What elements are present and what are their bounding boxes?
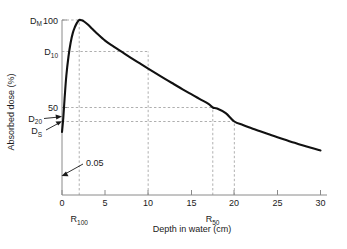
- svg-text:DM: DM: [30, 16, 42, 28]
- ytick-label-100: 100: [43, 16, 58, 26]
- d-m-sub: M: [37, 20, 42, 27]
- svg-text:R50: R50: [206, 214, 220, 226]
- svg-text:D10: D10: [44, 47, 58, 59]
- range-100-marker: R100: [71, 214, 89, 226]
- depth-dose-chart: 100 50 0 5 10 15 20 25 30 Depth in water…: [0, 0, 347, 249]
- xtick-label-25: 25: [272, 198, 282, 208]
- r-50-sub: 50: [212, 219, 220, 226]
- d-s-arrow-line: [46, 123, 59, 130]
- annot-005-arrow-line: [65, 164, 83, 174]
- d-s-arrowhead: [56, 121, 63, 125]
- xtick-label-0: 0: [59, 198, 64, 208]
- x-axis-title: Depth in water (cm): [153, 224, 232, 234]
- xtick-label-15: 15: [186, 198, 196, 208]
- max-dose-marker: DM: [30, 16, 42, 28]
- surface-dose-value-annotation: 0.05: [62, 158, 104, 176]
- xtick-label-30: 30: [315, 198, 325, 208]
- depth-dose-curve-path: [62, 20, 321, 151]
- annot-005-label: 0.05: [86, 158, 104, 168]
- r-100-sub: 100: [77, 219, 88, 226]
- xtick-label-10: 10: [143, 198, 153, 208]
- dose-at-10cm-marker: D10: [44, 47, 58, 59]
- d-s-sub: S: [38, 131, 43, 138]
- range-50-marker: R50: [206, 214, 220, 226]
- xtick-label-20: 20: [229, 198, 239, 208]
- y-axis-title: Absorbed dose (%): [6, 73, 16, 150]
- axes: [62, 20, 327, 195]
- dose-curve-accurate: [62, 20, 321, 151]
- svg-text:D20: D20: [28, 114, 42, 126]
- chart-svg: 100 50 0 5 10 15 20 25 30 Depth in water…: [0, 0, 347, 249]
- d-10-sub: 10: [51, 52, 59, 59]
- svg-text:R100: R100: [71, 214, 89, 226]
- d-20-sub: 20: [35, 118, 43, 125]
- ytick-label-50: 50: [48, 103, 58, 113]
- svg-text:DS: DS: [31, 126, 43, 138]
- annot-005-arrowhead: [62, 171, 69, 176]
- d-20-arrowhead: [56, 115, 63, 120]
- guide-lines: [62, 20, 234, 195]
- xtick-label-5: 5: [102, 198, 107, 208]
